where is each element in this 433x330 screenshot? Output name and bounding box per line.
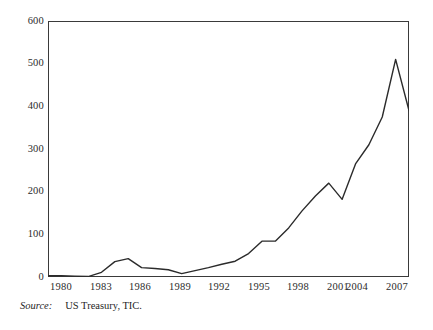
- chart-figure: 600 500 400 300 200 100 0 1980 1983 1986…: [0, 0, 433, 330]
- source-text: US Treasury, TIC.: [65, 300, 142, 311]
- x-tick-label-1980: 1980: [41, 281, 81, 293]
- y-tick-label-100: 100: [2, 229, 44, 240]
- y-tick-label-400: 400: [2, 101, 44, 112]
- x-axis: 1980 1983 1986 1989 1992 1995 1998 2001 …: [0, 281, 433, 297]
- x-tick-label-1986: 1986: [120, 281, 160, 293]
- y-tick-label-600: 600: [2, 16, 44, 27]
- y-tick-label-300: 300: [2, 144, 44, 155]
- x-tick-label-1983: 1983: [81, 281, 121, 293]
- data-series-line: [48, 59, 409, 276]
- x-tick-label-1992: 1992: [199, 281, 239, 293]
- x-tick-label-2004: 2004: [337, 281, 377, 293]
- y-tick-label-500: 500: [2, 58, 44, 69]
- x-tick-label-1998: 1998: [278, 281, 318, 293]
- x-tick-label-2007: 2007: [377, 281, 417, 293]
- y-tick-label-200: 200: [2, 186, 44, 197]
- plot-area: [48, 21, 409, 277]
- source-note: Source:US Treasury, TIC.: [20, 299, 142, 312]
- x-tick-label-1995: 1995: [239, 281, 279, 293]
- x-tick-label-1989: 1989: [160, 281, 200, 293]
- source-label: Source:: [20, 300, 52, 311]
